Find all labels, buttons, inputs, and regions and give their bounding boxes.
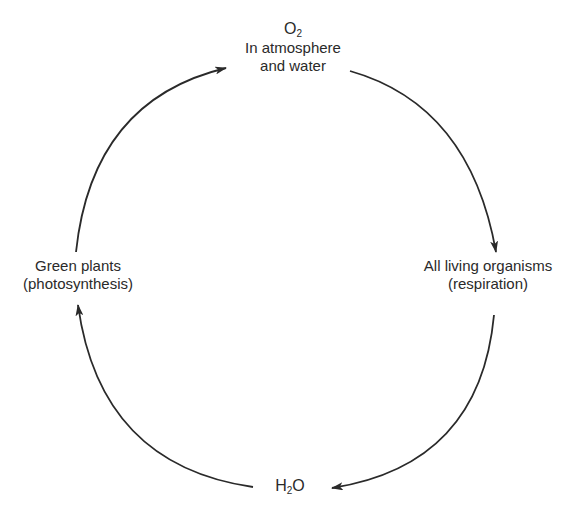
water-formula-base: H [275, 477, 287, 494]
node-water: H2O [255, 477, 325, 495]
oxygen-formula: O2 [213, 20, 373, 38]
arrow-plants-to-o2 [76, 68, 226, 252]
arrow-o2-to-organisms [350, 71, 496, 252]
oxygen-location-line1: In atmosphere [213, 39, 373, 57]
plants-label: Green plants [0, 257, 156, 275]
oxygen-formula-base: O [284, 20, 296, 37]
node-green-plants: Green plants (photosynthesis) [0, 257, 156, 293]
arrow-h2o-to-plants [78, 305, 253, 487]
arrow-organisms-to-h2o [332, 315, 494, 488]
organisms-label: All living organisms [390, 257, 586, 275]
node-oxygen: O2 In atmosphere and water [213, 20, 373, 75]
organisms-process: (respiration) [390, 275, 586, 293]
water-formula-tail: O [292, 477, 304, 494]
oxygen-formula-subscript: 2 [296, 28, 302, 39]
node-living-organisms: All living organisms (respiration) [390, 257, 586, 293]
oxygen-location-line2: and water [213, 57, 373, 75]
plants-process: (photosynthesis) [0, 275, 156, 293]
